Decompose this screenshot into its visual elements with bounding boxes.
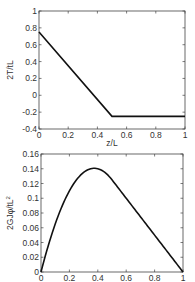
top-plot-x-axis-label: z/L <box>106 138 118 148</box>
y-tick-label: 0.4 <box>25 57 37 67</box>
y-tick-label: 0.06 <box>22 223 39 233</box>
y-tick-label: 0.14 <box>22 164 39 174</box>
y-tick-label: 1 <box>32 6 37 16</box>
top-plot-frame <box>39 11 185 129</box>
x-tick-label: 0.6 <box>121 130 133 140</box>
bottom-plot-x-tick-labels: 00.20.40.60.81 <box>39 273 186 282</box>
x-tick-label: 0 <box>39 273 44 282</box>
y-tick-label: 0 <box>34 267 39 277</box>
bottom-plot: 00.20.40.60.81 00.020.040.060.080.10.120… <box>5 149 186 282</box>
x-tick-label: 0.2 <box>63 273 75 282</box>
bottom-plot-y-axis-label-main: 2GJφ/tL <box>5 199 15 230</box>
y-tick-label: 0.8 <box>25 23 37 33</box>
figure: 00.20.40.60.81 -0.4-0.200.20.40.60.81 z/… <box>0 0 195 282</box>
x-tick-label: 0 <box>37 130 42 140</box>
y-tick-label: 0.02 <box>22 252 39 262</box>
x-tick-label: 0.4 <box>92 273 104 282</box>
bottom-plot-ticks <box>41 154 183 272</box>
x-tick-label: 0.8 <box>149 273 161 282</box>
x-tick-label: 0.6 <box>120 273 132 282</box>
y-tick-label: -0.4 <box>22 124 37 134</box>
x-tick-label: 0.2 <box>62 130 74 140</box>
bottom-plot-line <box>41 168 183 272</box>
y-tick-label: 0.2 <box>25 73 37 83</box>
y-tick-label: 0.1 <box>27 193 39 203</box>
top-plot-y-tick-labels: -0.4-0.200.20.40.60.81 <box>22 6 37 134</box>
y-tick-label: 0.6 <box>25 40 37 50</box>
bottom-plot-y-tick-labels: 00.020.040.060.080.10.120.140.16 <box>22 149 39 277</box>
x-tick-label: 1 <box>183 130 188 140</box>
x-tick-label: 1 <box>181 273 186 282</box>
top-plot-ticks <box>39 11 185 129</box>
x-tick-label: 0.8 <box>150 130 162 140</box>
y-tick-label: -0.2 <box>22 107 37 117</box>
y-tick-label: 0 <box>32 90 37 100</box>
y-tick-label: 0.16 <box>22 149 39 159</box>
bottom-plot-y-axis-label: 2GJφ/tL2 <box>5 195 15 230</box>
x-tick-label: 0.4 <box>91 130 103 140</box>
y-tick-label: 0.12 <box>22 179 39 189</box>
y-tick-label: 0.04 <box>22 238 39 248</box>
bottom-plot-frame <box>41 154 183 272</box>
bottom-plot-y-axis-label-superscript: 2 <box>5 195 11 199</box>
top-plot: 00.20.40.60.81 -0.4-0.200.20.40.60.81 z/… <box>5 6 188 148</box>
top-plot-y-axis-label: 2T/tL <box>5 60 15 80</box>
top-plot-line <box>39 32 185 116</box>
y-tick-label: 0.08 <box>22 208 39 218</box>
